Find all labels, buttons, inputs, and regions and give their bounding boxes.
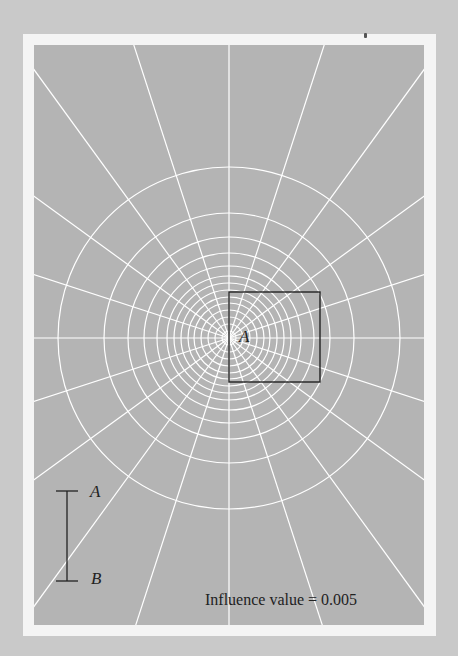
point-a-label: A (239, 327, 249, 347)
influence-chart-panel (34, 45, 424, 625)
influence-chart-grid (34, 45, 424, 625)
radial-line (229, 338, 424, 585)
radial-line (34, 91, 229, 338)
radial-line (229, 91, 424, 338)
influence-value-caption: Influence value = 0.005 (205, 591, 357, 609)
scale-bar-bottom-label: B (91, 569, 101, 589)
print-speck (364, 33, 367, 38)
scale-bar (50, 485, 90, 585)
scale-bar-top-label: A (90, 482, 100, 502)
